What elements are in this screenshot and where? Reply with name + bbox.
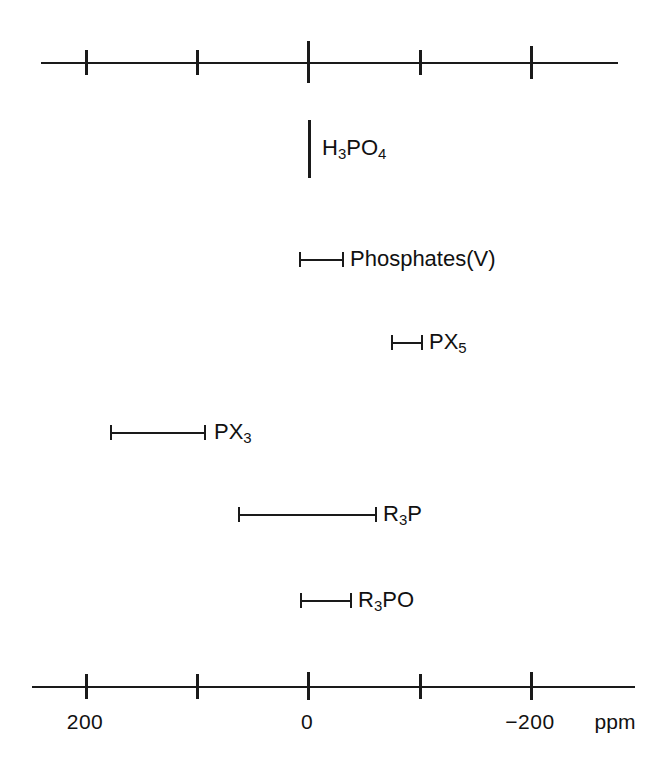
species-label-px5-sub: 5 xyxy=(458,339,466,356)
range-bar xyxy=(391,342,423,344)
top-axis-tick-minus100 xyxy=(419,50,422,75)
bottom-axis-tick-minus200 xyxy=(530,672,533,700)
axis-unit-label-ppm: ppm xyxy=(595,710,636,734)
marker-h3po4 xyxy=(308,120,311,178)
range-cap-right xyxy=(342,252,344,267)
species-label-r3p-text2: P xyxy=(407,501,422,526)
range-bar xyxy=(299,259,344,261)
species-label-phosphates-v: Phosphates(V) xyxy=(350,248,496,270)
bottom-axis-tick-minus100 xyxy=(419,674,422,699)
species-label-h3po4-sub2: 4 xyxy=(378,145,386,162)
range-cap-left xyxy=(238,507,240,522)
species-label-r3po: R3PO xyxy=(358,589,414,611)
range-bar xyxy=(238,514,377,516)
range-cap-left xyxy=(300,593,302,608)
bottom-axis-label-0: 0 xyxy=(301,710,313,734)
species-label-px3: PX3 xyxy=(214,421,252,443)
top-axis-tick-minus200 xyxy=(530,46,533,79)
bottom-axis-tick-100 xyxy=(196,674,199,699)
top-axis-tick-100 xyxy=(196,50,199,75)
species-label-r3p: R3P xyxy=(383,503,422,525)
species-label-px5-text: PX xyxy=(429,329,458,354)
bottom-axis-label-minus200: −200 xyxy=(505,710,554,734)
species-label-px5: PX5 xyxy=(429,331,467,353)
species-label-h3po4: H3PO4 xyxy=(322,137,386,159)
range-cap-right xyxy=(421,335,423,350)
top-axis-tick-0 xyxy=(307,41,310,83)
top-axis-tick-200 xyxy=(85,50,88,75)
bottom-axis-label-200: 200 xyxy=(67,710,104,734)
species-label-r3po-text: R xyxy=(358,587,374,612)
species-label-px3-sub: 3 xyxy=(243,429,251,446)
bottom-axis-line xyxy=(32,686,635,688)
range-bar xyxy=(300,600,352,602)
species-label-h3po4-text: H xyxy=(322,135,338,160)
bottom-axis-tick-200 xyxy=(85,674,88,699)
range-cap-right xyxy=(350,593,352,608)
species-label-h3po4-sub1: 3 xyxy=(338,145,346,162)
species-label-r3po-sub: 3 xyxy=(374,597,382,614)
nmr-chemical-shift-chart: H3PO4 Phosphates(V) PX5 PX3 R3P R xyxy=(0,0,666,761)
range-cap-left xyxy=(299,252,301,267)
range-cap-left xyxy=(391,335,393,350)
range-cap-right xyxy=(204,425,206,440)
species-label-px3-text: PX xyxy=(214,419,243,444)
range-cap-right xyxy=(375,507,377,522)
species-label-r3po-text2: PO xyxy=(382,587,414,612)
range-cap-left xyxy=(110,425,112,440)
range-bar xyxy=(110,432,206,434)
bottom-axis-tick-0 xyxy=(307,672,310,700)
species-label-r3p-sub: 3 xyxy=(399,511,407,528)
species-label-r3p-text: R xyxy=(383,501,399,526)
species-label-h3po4-text2: PO xyxy=(346,135,378,160)
